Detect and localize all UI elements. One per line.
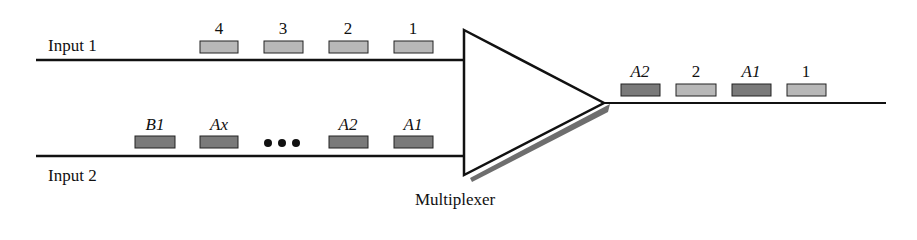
- packet-output-2: [676, 84, 716, 96]
- packet-label: 1: [786, 63, 826, 80]
- packet-label: 1: [393, 20, 433, 37]
- packet-input1-3: [264, 41, 303, 53]
- multiplexer-label: Multiplexer: [415, 191, 495, 208]
- packet-input2-ax: [200, 136, 238, 148]
- packet-input2-a2: [329, 136, 368, 148]
- packet-input2-a1: [394, 136, 433, 148]
- packet-label: A1: [731, 63, 771, 80]
- packet-input1-4: [200, 41, 238, 53]
- input-1-label: Input 1: [48, 37, 97, 54]
- packet-output-a1: [732, 84, 771, 96]
- packet-label: A2: [620, 63, 660, 80]
- packet-label: Ax: [199, 116, 239, 133]
- input-2-label: Input 2: [48, 167, 97, 184]
- packet-output-a2: [621, 84, 660, 96]
- packet-label: B1: [135, 116, 175, 133]
- packet-label: 3: [263, 20, 303, 37]
- packet-label: 2: [328, 20, 368, 37]
- packet-label: 2: [676, 63, 716, 80]
- packet-input2-b1: [135, 136, 175, 148]
- ellipsis-icon: [264, 139, 300, 147]
- packet-label: A2: [328, 116, 368, 133]
- packet-output-1: [787, 84, 826, 96]
- packet-input1-2: [329, 41, 368, 53]
- packet-input1-1: [394, 41, 433, 53]
- packet-label: A1: [393, 116, 433, 133]
- packet-label: 4: [199, 20, 239, 37]
- multiplexer-triangle: [464, 30, 604, 175]
